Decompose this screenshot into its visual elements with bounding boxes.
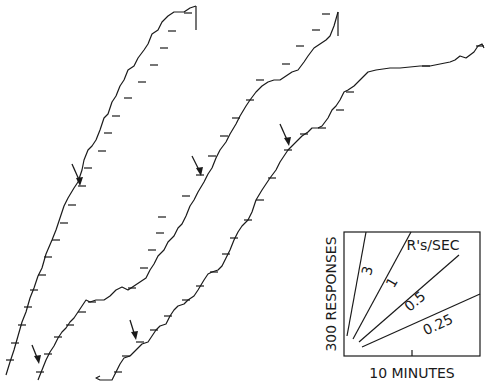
arrow-icon xyxy=(192,156,203,176)
rate-05-label: 0.5 xyxy=(401,288,428,315)
rate-3-label: 3 xyxy=(358,264,376,277)
record-1 xyxy=(6,6,196,375)
reinforcement-pips-1 xyxy=(6,13,192,360)
rate-legend: R's/SEC 3 1 0.5 0.25 10 MINUTES 300 RESP… xyxy=(323,232,480,381)
rate-025-label: 0.25 xyxy=(420,311,455,339)
arrow-icon xyxy=(130,320,138,340)
record-2 xyxy=(32,12,338,380)
x-axis-label: 10 MINUTES xyxy=(369,365,455,381)
cumulative-record-chart: R's/SEC 3 1 0.5 0.25 10 MINUTES 300 RESP… xyxy=(0,0,489,389)
arrow-icon xyxy=(32,345,41,364)
y-axis-label: 300 RESPONSES xyxy=(323,236,339,351)
rate-1-label: 1 xyxy=(383,275,401,291)
reinforcement-pips-2 xyxy=(36,14,330,372)
arrow-icon xyxy=(280,124,291,146)
legend-title: R's/SEC xyxy=(406,237,459,253)
